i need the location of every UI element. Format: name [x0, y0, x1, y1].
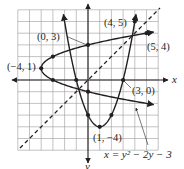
point-dot — [86, 90, 90, 94]
point-dot — [51, 78, 55, 82]
label-point-3-0: (3, 0) — [132, 85, 155, 97]
label-point-5-4: (5, 4) — [147, 41, 170, 53]
axis-label-y: y — [84, 160, 90, 169]
point-dot — [144, 31, 148, 35]
point-dot — [133, 19, 137, 23]
function-inverse-graph: (0, 3) (−4, 1) (4, 5) (5, 4) (3, 0) (1, … — [0, 0, 184, 169]
label-point-0-3: (0, 3) — [37, 31, 60, 43]
leader-0-3 — [68, 37, 87, 45]
point-dot — [109, 113, 113, 117]
leader-3-0 — [124, 81, 131, 88]
label-point-4-5: (4, 5) — [104, 17, 127, 29]
point-dot — [98, 125, 102, 129]
label-point-neg4-1: (−4, 1) — [7, 61, 36, 73]
point-dot — [51, 55, 55, 59]
point-dot — [86, 113, 90, 117]
point-dot — [74, 78, 78, 82]
label-point-1-neg4: (1, −4) — [93, 132, 122, 144]
point-dot — [39, 66, 43, 70]
axis-label-x: x — [171, 73, 177, 85]
equation-label: x = y² − 2y − 3 — [103, 148, 172, 160]
